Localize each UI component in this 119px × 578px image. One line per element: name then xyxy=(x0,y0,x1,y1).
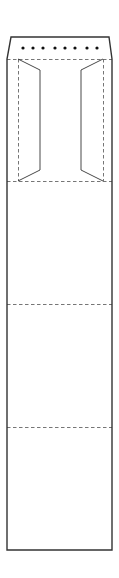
outer-cut-outline xyxy=(7,37,112,550)
perforation-dots xyxy=(21,46,98,49)
perforation-dot xyxy=(31,46,34,49)
right-side-flap xyxy=(81,59,103,181)
perforation-dot xyxy=(63,46,66,49)
perforation-dot xyxy=(95,46,98,49)
perforation-dot xyxy=(85,46,88,49)
left-side-flap xyxy=(18,59,40,181)
perforation-dot xyxy=(53,46,56,49)
perforation-dot xyxy=(41,46,44,49)
fold-lines xyxy=(7,59,112,428)
perforation-dot xyxy=(73,46,76,49)
perforation-dot xyxy=(21,46,24,49)
dieline-svg xyxy=(0,0,119,578)
side-flaps xyxy=(18,59,103,181)
dieline-diagram xyxy=(0,0,119,578)
